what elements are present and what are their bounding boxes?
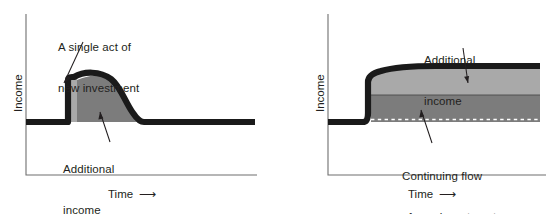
figure-container: Income A single act of new investment Ad… — [0, 0, 556, 214]
annotation-line-1: Additional — [424, 54, 476, 68]
x-axis-label-left: Time⟶ — [108, 187, 156, 201]
annotation-additional-income-right: Additional income — [424, 27, 476, 135]
annotation-line-1: A single act of — [58, 41, 139, 55]
annotation-line-1: Additional — [63, 163, 115, 177]
annotation-line-2: new investment — [58, 82, 139, 96]
x-axis-arrow-icon: ⟶ — [139, 188, 156, 200]
annotation-line-2: income — [424, 95, 476, 109]
annotation-line-1: Continuing flow — [402, 170, 496, 184]
chart-panel-continuing-flow: Income Additional income Continuing flow… — [278, 0, 556, 214]
x-axis-label-text: Time — [108, 188, 133, 200]
annotation-line-2: of new investment — [402, 211, 496, 215]
y-axis-label-right: Income — [314, 74, 326, 112]
annotation-single-act-of-new-investment: A single act of new investment — [58, 14, 139, 122]
chart-panel-single-act: Income A single act of new investment Ad… — [0, 0, 278, 214]
y-axis-label-left: Income — [12, 74, 24, 112]
x-axis-arrow-icon: ⟶ — [439, 188, 456, 200]
annotation-line-2: income — [63, 204, 115, 215]
x-axis-label-right: Time⟶ — [408, 187, 456, 201]
annotation-continuing-flow-of-new-investment: Continuing flow of new investment — [402, 143, 496, 214]
x-axis-label-text: Time — [408, 188, 433, 200]
annotation-additional-income-left: Additional income — [63, 136, 115, 214]
